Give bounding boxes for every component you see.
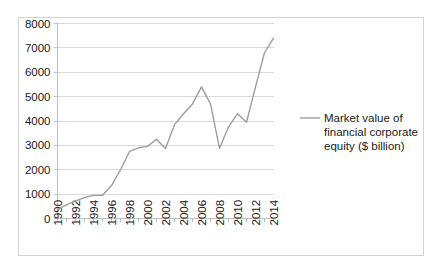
x-tick-label: 2002 (160, 200, 172, 226)
legend-label: Market value of (324, 112, 403, 124)
x-tick-label: 2010 (232, 200, 244, 226)
gridlines-group (58, 24, 274, 219)
y-tick-label: 0 (44, 213, 50, 225)
data-series-group (58, 38, 274, 209)
x-tick-label: 2012 (250, 200, 262, 226)
x-tick-label: 1990 (52, 200, 64, 226)
x-tick-label: 1994 (88, 199, 100, 225)
x-tick-label: 2004 (178, 199, 190, 225)
y-axis-line-group (54, 24, 58, 219)
y-tick-label: 8000 (25, 18, 51, 30)
legend-label: financial corporate (324, 126, 418, 138)
x-tick-label: 2014 (268, 199, 280, 225)
legend-label: equity ($ billion) (324, 140, 405, 152)
x-tick-label: 1998 (124, 200, 136, 226)
x-tick-label: 2008 (214, 200, 226, 226)
y-tick-label: 5000 (25, 91, 51, 103)
x-tick-label: 1992 (70, 200, 82, 226)
x-tick-label: 2000 (142, 200, 154, 226)
x-tick-label: 1996 (106, 200, 118, 226)
y-tick-label: 7000 (25, 42, 51, 54)
y-tick-labels-group: 010002000300040005000600070008000 (25, 18, 51, 225)
y-tick-label: 1000 (25, 188, 51, 200)
y-tick-label: 3000 (25, 139, 51, 151)
data-line-series (58, 38, 274, 209)
x-tick-labels-group: 1990199219941996199820002002200420062008… (52, 199, 280, 225)
x-tick-label: 2006 (196, 200, 208, 226)
y-tick-label: 2000 (25, 164, 51, 176)
y-tick-label: 6000 (25, 66, 51, 78)
chart-figure: 010002000300040005000600070008000 199019… (0, 0, 446, 275)
legend-group: Market value offinancial corporateequity… (300, 112, 418, 152)
y-tick-label: 4000 (25, 115, 51, 127)
